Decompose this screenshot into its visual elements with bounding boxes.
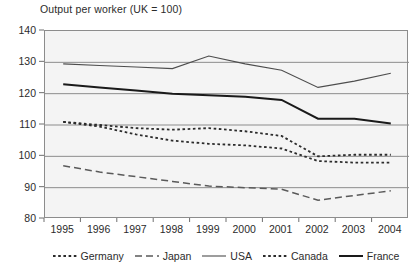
legend-swatch-usa-icon	[202, 252, 226, 260]
x-axis-tick-label: 2003	[342, 223, 365, 235]
x-axis-tick-label: 1998	[160, 223, 183, 235]
legend-label: USA	[230, 250, 252, 262]
x-axis-tick-label: 1996	[87, 223, 110, 235]
plot-lines	[45, 31, 409, 219]
legend-entry-germany: Germany	[53, 250, 124, 262]
x-axis-tick-label: 2001	[269, 223, 292, 235]
x-axis-tick-label: 2000	[233, 223, 256, 235]
y-axis-tick-label: 120	[2, 87, 36, 99]
chart-figure: Output per worker (UK = 100) 80901001101…	[0, 0, 418, 274]
legend-label: Japan	[163, 250, 192, 262]
series-line-france	[63, 84, 391, 123]
series-line-usa	[63, 56, 391, 87]
legend-swatch-germany-icon	[53, 252, 77, 260]
y-axis-tick-label: 140	[2, 24, 36, 36]
y-axis-tick-label: 100	[2, 149, 36, 161]
legend-swatch-france-icon	[339, 252, 363, 260]
legend-label: Canada	[291, 250, 328, 262]
legend-swatch-canada-icon	[263, 252, 287, 260]
y-axis-tick-label: 110	[2, 118, 36, 130]
chart-title: Output per worker (UK = 100)	[40, 3, 182, 15]
chart-legend: GermanyJapanUSACanadaFrance	[44, 246, 408, 266]
legend-entry-canada: Canada	[263, 250, 328, 262]
plot-area	[44, 30, 408, 218]
x-axis-tick-label: 2002	[305, 223, 328, 235]
legend-entry-usa: USA	[202, 250, 252, 262]
series-line-japan	[63, 166, 391, 200]
x-axis-tick-label: 2004	[378, 223, 401, 235]
y-axis-tick-label: 80	[2, 212, 36, 224]
x-axis-tick-label: 1997	[123, 223, 146, 235]
legend-label: Germany	[81, 250, 124, 262]
x-axis-tick-label: 1995	[51, 223, 74, 235]
legend-entry-france: France	[339, 250, 400, 262]
y-axis-tick-label: 90	[2, 181, 36, 193]
legend-swatch-japan-icon	[135, 252, 159, 260]
y-axis-tick-label: 130	[2, 55, 36, 67]
legend-entry-japan: Japan	[135, 250, 192, 262]
series-line-germany	[63, 122, 391, 156]
legend-label: France	[367, 250, 400, 262]
x-axis-tick-label: 1999	[196, 223, 219, 235]
